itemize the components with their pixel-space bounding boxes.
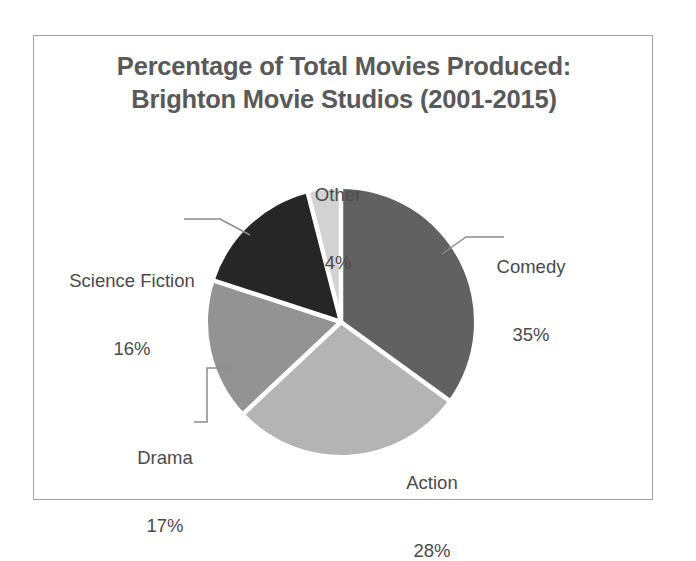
chart-frame: Percentage of Total Movies Produced: Bri… <box>33 35 653 500</box>
pie-label-action-value: 28% <box>372 540 492 561</box>
pie-label-other-value: 4% <box>283 252 393 275</box>
pie-label-comedy-name: Comedy <box>471 256 591 279</box>
pie-label-comedy-value: 35% <box>471 324 591 347</box>
pie-label-other: Other 4% <box>283 139 393 320</box>
pie-label-action: Action 28% <box>372 427 492 561</box>
pie-label-drama-name: Drama <box>110 447 220 470</box>
pie-label-other-name: Other <box>283 184 393 207</box>
pie-label-science-fiction: Science Fiction 16% <box>47 225 217 406</box>
pie-label-drama: Drama 17% <box>110 402 220 561</box>
pie-label-comedy: Comedy 35% <box>471 211 591 392</box>
pie-label-action-name: Action <box>372 472 492 495</box>
pie-label-drama-value: 17% <box>110 515 220 538</box>
pie-label-science-fiction-value: 16% <box>47 338 217 361</box>
pie-label-science-fiction-name: Science Fiction <box>47 270 217 293</box>
